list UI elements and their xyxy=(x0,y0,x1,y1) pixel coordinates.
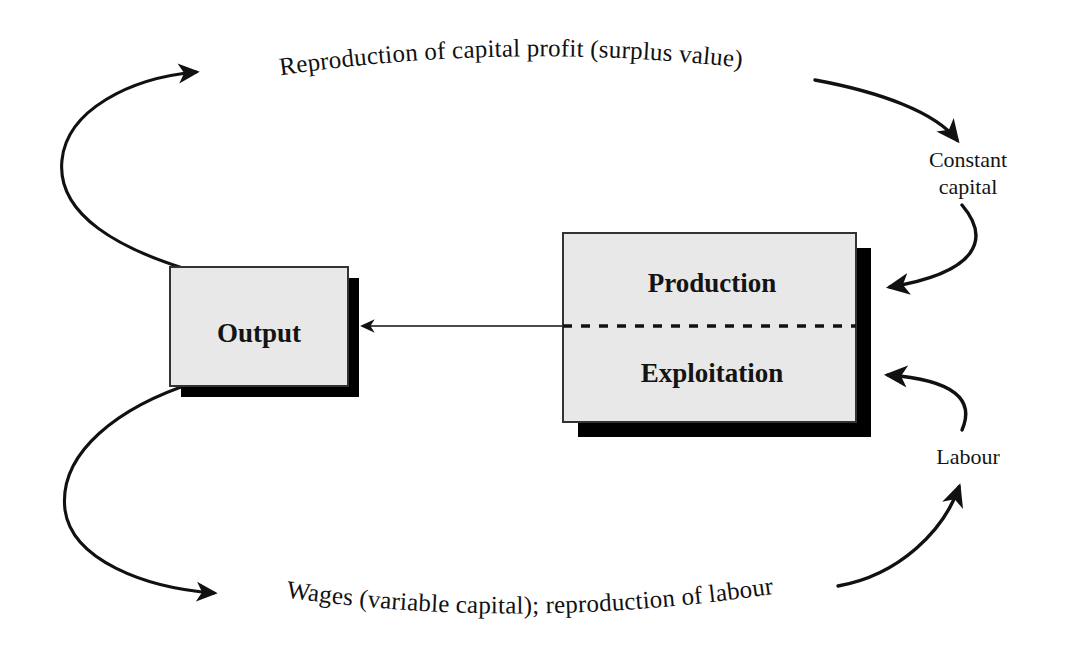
arrow-wages-to-labour xyxy=(838,487,959,586)
label-constant-capital: Constant capital xyxy=(929,147,1007,199)
arrow-output-to-surplus-value xyxy=(62,72,196,272)
diagram-canvas: Output Production Exploitation Constant … xyxy=(0,0,1065,671)
arrow-labour-to-exploitation xyxy=(888,375,966,430)
label-labour-line1: Labour xyxy=(936,444,1000,469)
arc-label-top: Reproduction of capital profit (surplus … xyxy=(278,34,745,80)
arc-label-bottom: Wages (variable capital); reproduction o… xyxy=(285,572,775,620)
arrow-constant-capital-to-production xyxy=(890,205,976,287)
box-output-label: Output xyxy=(217,318,301,348)
box-output[interactable]: Output xyxy=(170,267,359,397)
box-production-label-top: Production xyxy=(648,268,777,298)
label-constant-capital-line2: capital xyxy=(939,174,998,199)
arc-label-top-text: Reproduction of capital profit (surplus … xyxy=(278,34,745,80)
arrow-output-to-wages xyxy=(64,382,214,593)
label-labour: Labour xyxy=(936,444,1000,469)
box-production-exploitation[interactable]: Production Exploitation xyxy=(563,233,871,437)
label-constant-capital-line1: Constant xyxy=(929,147,1007,172)
arc-label-bottom-text: Wages (variable capital); reproduction o… xyxy=(285,572,775,620)
capital-circuit-diagram: Output Production Exploitation Constant … xyxy=(0,0,1065,671)
arrow-surplus-value-to-constant-capital xyxy=(815,80,957,140)
box-production-label-bottom: Exploitation xyxy=(641,358,784,388)
